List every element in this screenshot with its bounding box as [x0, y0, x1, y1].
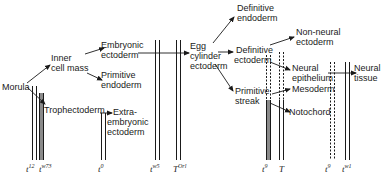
block-bar-tw5	[156, 40, 160, 160]
node-trophectoderm: Trophectoderm	[44, 105, 105, 115]
node-neural-epithelium-line1: Neural	[292, 63, 319, 73]
node-non-neural-ectoderm-line1: Non-neural	[296, 27, 341, 37]
arrow-streak-to-mesoderm	[272, 89, 290, 94]
node-primitive-streak-line1: Primitive	[235, 86, 270, 96]
gene-label-T: T	[279, 161, 284, 174]
block-bar-t0	[102, 113, 106, 160]
gene-label-t9-first: t9	[262, 161, 268, 174]
node-inner-cell-mass-line1: Inner	[51, 53, 72, 63]
block-bar-t12	[33, 86, 37, 160]
node-egg-cylinder-ectoderm-line1: Egg	[190, 41, 206, 51]
node-definitive-endoderm-line1: Definitive	[237, 3, 274, 13]
node-definitive-endoderm-line2: endoderm	[237, 13, 278, 23]
block-bar-t9-first	[267, 55, 271, 160]
gene-label-tw5: tw5	[150, 161, 160, 174]
node-neural-tissue-line1: Neural	[354, 63, 381, 73]
gene-label-TOrl: TOrl	[173, 161, 186, 174]
node-non-neural-ectoderm-line2: ectoderm	[296, 37, 334, 47]
block-bar-TOrl	[177, 40, 181, 160]
arrow-defecto-to-non-neural	[270, 37, 294, 45]
node-embryonic-ectoderm-line1: Embryonic	[101, 40, 144, 50]
arrow-morula-to-icm	[27, 65, 50, 83]
node-definitive-ectoderm-line2: ectoderm	[234, 55, 272, 65]
block-bar-T	[280, 52, 284, 160]
node-extraembryonic-ectoderm-line3: ectoderm	[107, 127, 145, 137]
node-neural-tissue-line2: tissue	[354, 73, 378, 83]
node-notochord: Notochord	[289, 107, 331, 117]
node-morula: Morula	[2, 82, 30, 92]
node-egg-cylinder-ectoderm-line3: ectoderm	[190, 61, 228, 71]
gene-label-t9-second: t9	[325, 161, 331, 174]
node-mesoderm: Mesoderm	[292, 84, 335, 94]
arrow-egg-to-definitive-endoderm	[213, 17, 234, 43]
node-primitive-streak-line2: streak	[235, 96, 260, 106]
block-bar-tw1	[346, 62, 350, 160]
node-neural-epithelium-line2: epithelium	[292, 73, 333, 83]
gene-label-t0: t0	[98, 161, 104, 174]
node-extraembryonic-ectoderm-line2: embryonic	[107, 117, 149, 127]
arrow-icm-to-primitive-endoderm	[87, 73, 102, 80]
node-inner-cell-mass-line2: cell mass	[51, 63, 89, 73]
gene-label-tw73: tw73	[39, 161, 52, 174]
node-embryonic-ectoderm-line2: ectoderm	[101, 50, 139, 60]
gene-label-t12: t12	[26, 161, 35, 174]
node-definitive-ectoderm-line1: Definitive	[236, 45, 273, 55]
node-primitive-endoderm-line2: endoderm	[101, 80, 142, 90]
gene-label-tw1: tw1	[342, 161, 352, 174]
node-primitive-endoderm-line1: Primitive	[101, 70, 136, 80]
node-extraembryonic-ectoderm-line1: Extra-	[113, 107, 137, 117]
node-egg-cylinder-ectoderm-line2: cylinder	[190, 51, 221, 61]
block-bar-tw73	[40, 93, 44, 160]
